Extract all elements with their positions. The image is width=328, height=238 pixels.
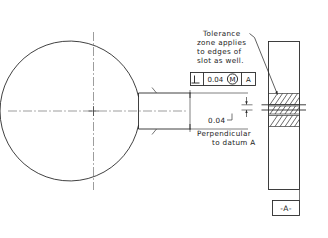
front-view-circular-part — [0, 32, 190, 190]
side-view-plate — [262, 42, 306, 190]
mmc-modifier-letter: M — [229, 76, 235, 84]
feature-control-frame[interactable]: 0.04 M A — [191, 73, 256, 86]
datum-feature-symbol-a[interactable]: -A- — [273, 190, 300, 216]
tolerance-note-line-1: Tolerance — [202, 29, 241, 38]
dimension-value-0-04: 0.04 — [208, 116, 225, 125]
fcf-tolerance-value: 0.04 — [208, 76, 224, 84]
hatched-tolerance-zone-upper — [269, 94, 300, 105]
datum-feature-label: -A- — [280, 204, 292, 213]
perpendicular-note-line-1: Perpendicular — [197, 129, 251, 138]
drawing-svg-surface: 0.04 M A Tolerance zone applies to edges… — [0, 0, 328, 238]
perpendicular-note-line-2: to datum A — [212, 138, 256, 147]
dimension-value-leader — [227, 114, 232, 121]
perpendicular-to-datum-note: Perpendicular to datum A — [197, 129, 256, 147]
tolerance-note-line-4: slot as well. — [197, 56, 244, 65]
perpendicularity-symbol — [192, 76, 200, 84]
projection-lines — [190, 90, 248, 132]
tolerance-zone-width-dimension: 0.04 — [208, 97, 253, 125]
tolerance-note-leader-arrow-line — [255, 38, 278, 95]
tolerance-zone-note: Tolerance zone applies to edges of slot … — [197, 29, 278, 95]
engineering-drawing-canvas: 0.04 M A Tolerance zone applies to edges… — [0, 0, 328, 238]
fcf-datum-reference: A — [246, 76, 251, 84]
center-mark — [89, 106, 99, 116]
hatched-tolerance-zone-lower — [269, 116, 300, 127]
tolerance-note-line-3: to edges of — [197, 47, 241, 56]
tolerance-note-leader-line — [250, 34, 255, 38]
tolerance-note-line-2: zone applies — [197, 38, 246, 47]
mmc-modifier-symbol: M — [227, 74, 237, 84]
